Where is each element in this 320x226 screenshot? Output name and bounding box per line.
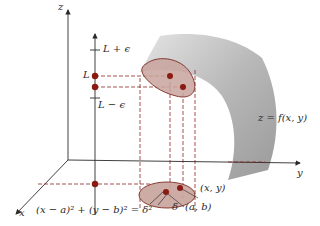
label-L-plus-epsilon: L + ϵ	[103, 44, 130, 54]
y-axis-label: y	[297, 168, 303, 178]
point-surface-center	[167, 73, 173, 79]
label-x-y: (x, y)	[200, 183, 225, 193]
label-L-minus-epsilon: L − ϵ	[98, 100, 125, 110]
point-f-value	[92, 84, 98, 90]
x-axis-label: x	[19, 208, 25, 218]
surface-label: z = f(x, y)	[258, 113, 307, 123]
point-L	[92, 73, 98, 79]
label-L: L	[83, 70, 90, 80]
disk-equation: (x − a)² + (y − b)² = δ²	[36, 205, 152, 215]
point-x-projection	[92, 181, 98, 187]
point-x-y	[177, 185, 183, 191]
label-a-b: (a, b)	[185, 202, 212, 212]
z-axis-label: z	[58, 2, 63, 12]
surface-z-f-xy	[140, 34, 277, 180]
point-surface-xy	[180, 84, 186, 90]
label-radius-delta: δ	[172, 202, 178, 212]
